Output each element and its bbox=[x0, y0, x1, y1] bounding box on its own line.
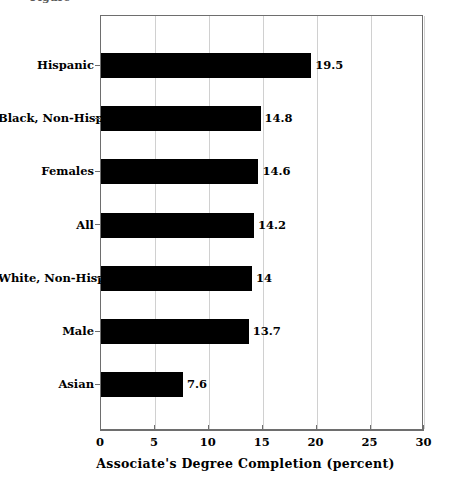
bar-value-label: 14.6 bbox=[262, 165, 290, 177]
bar-value-label: 19.5 bbox=[315, 59, 343, 71]
x-axis-tick-label: 10 bbox=[188, 436, 228, 449]
bar bbox=[101, 106, 261, 131]
bar-value-label: 14.8 bbox=[265, 112, 293, 124]
x-axis-tick-label: 0 bbox=[80, 436, 120, 449]
bar-value-label: 14.2 bbox=[258, 219, 286, 231]
bar-value-label: 14 bbox=[256, 272, 272, 284]
y-axis-label: Asian bbox=[0, 378, 94, 390]
bar bbox=[101, 266, 252, 291]
y-axis-label: All bbox=[0, 219, 94, 231]
gridline-20 bbox=[317, 16, 318, 429]
bar bbox=[101, 319, 249, 344]
y-axis-label: Hispanic bbox=[0, 59, 94, 71]
y-axis-label: White, Non-Hisp bbox=[0, 272, 94, 284]
x-axis-tick-label: 20 bbox=[296, 436, 336, 449]
x-axis-tick-label: 30 bbox=[403, 436, 443, 449]
y-axis-tick bbox=[95, 65, 101, 66]
x-axis-tick-0 bbox=[100, 425, 101, 431]
bar-value-label: 13.7 bbox=[253, 325, 281, 337]
y-axis-tick bbox=[95, 277, 101, 278]
x-axis-tick-10 bbox=[208, 425, 209, 431]
y-axis-tick bbox=[95, 171, 101, 172]
y-axis-tick bbox=[95, 384, 101, 385]
y-axis-label: Male bbox=[0, 325, 94, 337]
bar bbox=[101, 53, 311, 78]
y-axis-tick bbox=[95, 118, 101, 119]
bar bbox=[101, 159, 258, 184]
y-axis-category-labels: HispanicBlack, Non-HispFemalesAllWhite, … bbox=[0, 0, 94, 490]
y-axis-tick bbox=[95, 331, 101, 332]
y-axis-tick bbox=[95, 224, 101, 225]
gridline-30 bbox=[424, 16, 425, 429]
x-axis-tick-label: 5 bbox=[134, 436, 174, 449]
y-axis-label: Females bbox=[0, 165, 94, 177]
x-axis-tick-label: 25 bbox=[350, 436, 390, 449]
x-axis-tick-label: 15 bbox=[242, 436, 282, 449]
x-axis-tick-25 bbox=[370, 425, 371, 431]
x-axis-tick-30 bbox=[423, 425, 424, 431]
bar bbox=[101, 213, 254, 238]
x-axis-tick-5 bbox=[154, 425, 155, 431]
x-axis-tick-15 bbox=[262, 425, 263, 431]
gridline-25 bbox=[371, 16, 372, 429]
x-axis-tick-20 bbox=[316, 425, 317, 431]
y-axis-label: Black, Non-Hisp bbox=[0, 112, 94, 124]
x-axis-title: Associate's Degree Completion (percent) bbox=[0, 456, 449, 471]
bar-value-label: 7.6 bbox=[187, 378, 207, 390]
bar bbox=[101, 372, 183, 397]
